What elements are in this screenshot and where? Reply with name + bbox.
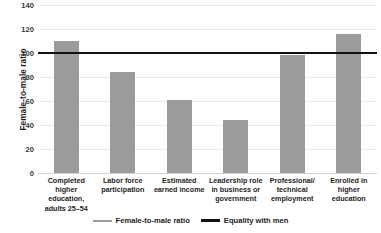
bar-slot <box>321 5 378 173</box>
bar-slot <box>151 5 208 173</box>
bar-chart: Female-to-male ratio 020406080100120140 … <box>0 0 381 233</box>
y-tick-label: 40 <box>6 121 34 130</box>
x-axis-label-line: earned income <box>152 185 207 194</box>
bar-slot <box>264 5 321 173</box>
legend-swatch-icon <box>201 219 220 222</box>
x-axis-label-line: technical <box>265 185 320 194</box>
legend-label: Female-to-male ratio <box>116 216 190 225</box>
chart-legend: Female-to-male ratioEquality with men <box>0 216 381 225</box>
x-axis-label: Professional/technicalemployment <box>264 176 321 213</box>
y-axis-tick-labels: 020406080100120140 <box>6 0 34 175</box>
x-axis-label: Completed highereducation,adults 25–54 <box>38 176 95 213</box>
x-axis-label-line: employment <box>265 194 320 203</box>
y-tick-label: 140 <box>6 1 34 10</box>
bar <box>167 100 192 173</box>
x-axis-label-line: adults 25–54 <box>39 204 94 213</box>
x-axis-label-line: Labor force <box>96 176 151 185</box>
x-axis-label-line: Leadership role <box>209 176 264 185</box>
x-axis-label: Estimatedearned income <box>151 176 208 213</box>
x-axis-category-labels: Completed highereducation,adults 25–54La… <box>38 176 377 213</box>
equality-reference-line <box>38 52 377 54</box>
x-axis-label-line: Professional/ <box>265 176 320 185</box>
legend-label: Equality with men <box>224 216 289 225</box>
bar <box>223 120 248 173</box>
x-axis-label-line: higher <box>322 185 377 194</box>
y-tick-label: 20 <box>6 145 34 154</box>
x-axis-label-line: in business or <box>209 185 264 194</box>
x-axis-label-line: Completed higher <box>39 176 94 194</box>
legend-item[interactable]: Equality with men <box>201 216 289 225</box>
bar-slot <box>38 5 95 173</box>
y-tick-label: 120 <box>6 25 34 34</box>
bar-slot <box>208 5 265 173</box>
y-tick-label: 80 <box>6 73 34 82</box>
legend-swatch-icon <box>93 220 112 222</box>
bar-slot <box>95 5 152 173</box>
plot-area <box>38 5 377 173</box>
x-axis-label-line: education <box>322 194 377 203</box>
y-tick-label: 60 <box>6 97 34 106</box>
x-axis-label: Enrolled inhighereducation <box>321 176 378 213</box>
bars-layer <box>38 5 377 173</box>
x-axis-label-line: Enrolled in <box>322 176 377 185</box>
bar <box>54 41 79 173</box>
x-axis-label: Leadership rolein business orgovernment <box>208 176 265 213</box>
x-axis-label: Labor forceparticipation <box>95 176 152 213</box>
bar <box>336 34 361 173</box>
x-axis-label-line: government <box>209 194 264 203</box>
x-axis-label-line: education, <box>39 194 94 203</box>
gridline <box>38 173 377 174</box>
x-axis-label-line: participation <box>96 185 151 194</box>
y-tick-label: 0 <box>6 169 34 178</box>
x-axis-label-line: Estimated <box>152 176 207 185</box>
y-tick-label: 100 <box>6 49 34 58</box>
bar <box>110 72 135 173</box>
bar <box>280 55 305 173</box>
legend-item[interactable]: Female-to-male ratio <box>93 216 190 225</box>
